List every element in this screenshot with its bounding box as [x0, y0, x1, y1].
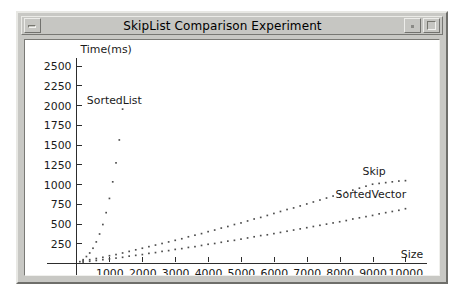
screenshot-root: SkipList Comparison Experiment 250500750… — [0, 0, 463, 300]
data-point — [385, 182, 387, 184]
data-point — [352, 218, 354, 220]
y-tick-label: 2000 — [44, 100, 72, 113]
x-tick-label: 8000 — [326, 267, 354, 275]
data-point — [391, 211, 393, 213]
data-point — [168, 241, 170, 243]
data-point — [227, 226, 229, 228]
data-point — [280, 232, 282, 234]
data-point — [214, 243, 216, 245]
y-tick-label: 2250 — [44, 80, 72, 93]
titlebar-right-controls — [404, 18, 440, 33]
data-point — [273, 213, 275, 215]
data-point — [188, 236, 190, 238]
data-point — [253, 236, 255, 238]
data-point — [95, 241, 97, 243]
data-point — [391, 181, 393, 183]
data-point — [227, 240, 229, 242]
data-point — [247, 220, 249, 222]
data-point — [260, 217, 262, 219]
data-point — [109, 258, 111, 260]
x-tick-label: 10000 — [389, 267, 424, 275]
data-point — [299, 205, 301, 207]
data-point — [234, 224, 236, 226]
titlebar-left-controls — [24, 18, 41, 33]
series-sortedvector — [82, 208, 406, 263]
data-point — [220, 227, 222, 229]
data-point — [306, 227, 308, 229]
data-point — [122, 256, 124, 258]
series-labels-group: SortedListSkipSortedVector — [87, 94, 407, 202]
data-point — [89, 259, 91, 261]
data-points-group — [79, 108, 406, 263]
maximize-button[interactable] — [423, 18, 440, 33]
data-point — [313, 201, 315, 203]
data-point — [92, 247, 94, 249]
y-tick-label: 1750 — [44, 119, 72, 132]
data-point — [207, 243, 209, 245]
data-point — [95, 260, 97, 262]
data-point — [345, 220, 347, 222]
data-point — [365, 216, 367, 218]
data-point — [155, 252, 157, 254]
data-point — [89, 252, 91, 254]
data-point — [319, 224, 321, 226]
data-point — [385, 212, 387, 214]
data-point — [201, 245, 203, 247]
data-point — [135, 249, 137, 251]
data-point — [115, 162, 117, 164]
data-point — [112, 181, 114, 183]
data-point — [326, 223, 328, 225]
data-point — [398, 180, 400, 182]
data-point — [174, 239, 176, 241]
data-point — [266, 234, 268, 236]
data-point — [247, 237, 249, 239]
data-point — [286, 209, 288, 211]
data-point — [188, 247, 190, 249]
y-tick-label: 2500 — [44, 60, 72, 73]
data-point — [405, 180, 407, 182]
data-point — [194, 246, 196, 248]
minimize-button[interactable] — [24, 18, 41, 33]
data-point — [194, 234, 196, 236]
data-point — [128, 255, 130, 257]
series-label-sortedlist: SortedList — [87, 94, 142, 107]
data-point — [293, 207, 295, 209]
scatter-plot: 2505007501000125015001750200022502500100… — [25, 40, 439, 275]
data-point — [174, 249, 176, 251]
data-point — [234, 239, 236, 241]
data-point — [82, 261, 84, 263]
data-point — [378, 183, 380, 185]
window-title: SkipList Comparison Experiment — [41, 19, 404, 33]
data-point — [181, 238, 183, 240]
y-tick-label: 1500 — [44, 139, 72, 152]
data-point — [115, 254, 117, 256]
data-point — [273, 233, 275, 235]
y-tick-label: 750 — [51, 198, 72, 211]
data-point — [299, 228, 301, 230]
data-point — [89, 260, 91, 262]
shade-button[interactable] — [404, 18, 421, 33]
data-point — [95, 258, 97, 260]
data-point — [102, 256, 104, 258]
data-point — [372, 215, 374, 217]
x-tick-label: 9000 — [359, 267, 387, 275]
window-titlebar[interactable]: SkipList Comparison Experiment — [21, 16, 443, 35]
data-point — [319, 199, 321, 201]
data-point — [181, 248, 183, 250]
data-point — [405, 208, 407, 210]
y-tick-label: 250 — [51, 238, 72, 251]
data-point — [141, 247, 143, 249]
data-point — [207, 231, 209, 233]
data-point — [220, 241, 222, 243]
series-label-sortedvector: SortedVector — [336, 188, 407, 201]
x-tick-label: 1000 — [96, 267, 124, 275]
data-point — [155, 244, 157, 246]
y-axis-title: Time(ms) — [79, 43, 131, 56]
x-tick-label: 2000 — [129, 267, 157, 275]
data-point — [86, 256, 88, 258]
data-point — [148, 246, 150, 248]
data-point — [161, 251, 163, 253]
y-tick-label: 1000 — [44, 179, 72, 192]
data-point — [201, 233, 203, 235]
data-point — [105, 212, 107, 214]
